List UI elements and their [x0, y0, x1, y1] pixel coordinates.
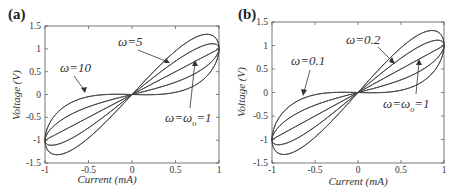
chart-panel-a: (a) -1-0.500.511.510.50-0.5-1-1.5 ω=10 ω… [0, 0, 228, 195]
svg-text:0.5: 0.5 [256, 64, 268, 74]
annotation-omega-5: ω=5 [118, 34, 170, 63]
svg-text:-1: -1 [268, 165, 276, 175]
hysteresis-curves [45, 34, 219, 154]
svg-text:1: 1 [442, 165, 447, 175]
hysteresis-curves [272, 31, 444, 155]
annotation-omega-omega0: ω=ωo=1 [165, 60, 211, 128]
y-axis-title: Voltage (V) [235, 67, 248, 117]
svg-text:ω=0.1: ω=0.1 [291, 53, 325, 68]
svg-text:ω=5: ω=5 [118, 34, 143, 49]
annotation-omega-10: ω=10 [60, 60, 91, 93]
y-axis-title: Voltage (V) [10, 70, 23, 120]
svg-text:1: 1 [36, 44, 41, 54]
plot-a: -1-0.500.511.510.50-0.5-1-1.5 ω=10 ω=5 ω… [0, 0, 228, 195]
svg-text:0: 0 [263, 88, 268, 98]
svg-text:ω=ωo=1: ω=ωo=1 [165, 110, 211, 128]
svg-text:-1: -1 [41, 165, 49, 175]
svg-text:0.5: 0.5 [170, 165, 182, 175]
annotation-omega-0-2: ω=0.2 [346, 32, 395, 64]
svg-text:0.5: 0.5 [29, 67, 41, 77]
svg-text:-0.5: -0.5 [307, 165, 322, 175]
x-axis-title: Current (mA) [328, 175, 388, 188]
svg-text:0.5: 0.5 [395, 165, 407, 175]
svg-text:-1: -1 [33, 135, 41, 145]
svg-text:1: 1 [263, 41, 268, 51]
svg-text:-1.5: -1.5 [26, 158, 41, 168]
plot-b: -1-0.500.511.510.50-0.5-1-1.5 ω=0.1 ω=0.… [228, 0, 456, 195]
annotation-omega-omega0: ω=ωo=1 [383, 59, 429, 114]
svg-text:-0.5: -0.5 [253, 111, 268, 121]
svg-text:0: 0 [356, 165, 361, 175]
svg-text:1.5: 1.5 [29, 21, 41, 31]
svg-text:-1: -1 [260, 135, 268, 145]
svg-text:-0.5: -0.5 [26, 112, 41, 122]
svg-text:ω=10: ω=10 [60, 60, 91, 75]
x-axis-title: Current (mA) [77, 173, 137, 186]
svg-text:-1.5: -1.5 [253, 158, 268, 168]
svg-text:0: 0 [36, 90, 41, 100]
svg-text:ω=0.2: ω=0.2 [346, 32, 381, 47]
svg-text:1: 1 [217, 165, 222, 175]
svg-text:ω=ωo=1: ω=ωo=1 [383, 96, 429, 114]
svg-text:1.5: 1.5 [256, 17, 268, 27]
chart-panel-b: (b) -1-0.500.511.510.50-0.5-1-1.5 ω=0.1 … [228, 0, 456, 195]
annotation-omega-0-1: ω=0.1 [291, 53, 325, 96]
